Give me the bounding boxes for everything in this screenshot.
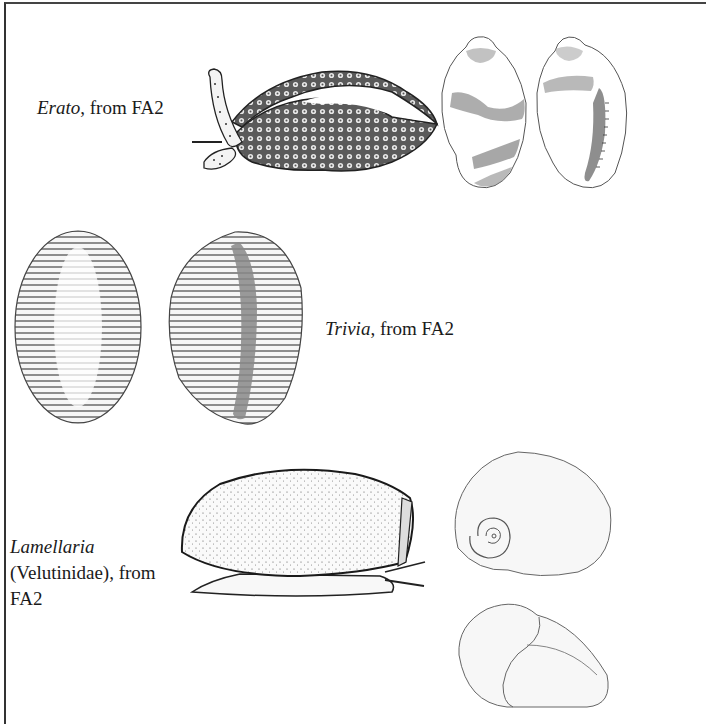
trivia-shell-dorsal-illustration: [13, 228, 143, 426]
erato-shell-dorsal-illustration: [438, 33, 530, 191]
erato-genus: Erato: [37, 97, 80, 118]
erato-caption: Erato, from FA2: [37, 95, 164, 121]
lamellaria-animal-illustration: [180, 462, 428, 600]
lamellaria-genus: Lamellaria: [10, 536, 94, 557]
trivia-genus: Trivia: [325, 318, 370, 339]
trivia-shell-apertural-illustration: [165, 228, 307, 428]
lamellaria-shell-apical-illustration: [448, 448, 618, 580]
erato-shell-apertural-illustration: [533, 33, 633, 191]
erato-source: , from FA2: [80, 97, 164, 118]
lamellaria-source: FA2: [10, 586, 156, 612]
erato-animal-illustration: [192, 62, 442, 192]
trivia-source: , from FA2: [370, 318, 454, 339]
lamellaria-family: (Velutinidae), from: [10, 560, 156, 586]
trivia-caption: Trivia, from FA2: [325, 316, 454, 342]
lamellaria-shell-apertural-illustration: [447, 595, 615, 708]
lamellaria-caption: Lamellaria (Velutinidae), from FA2: [10, 534, 156, 612]
